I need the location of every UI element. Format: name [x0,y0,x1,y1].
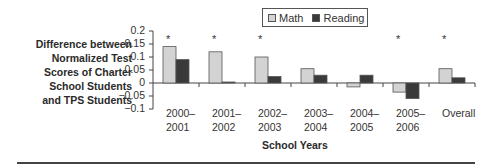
x-category-label: Overall [442,106,475,134]
bar-reading [268,77,281,84]
legend-item-reading: Reading [312,12,364,24]
x-category-label: 2002–2003 [258,106,287,134]
legend-label: Reading [323,12,364,24]
bar-reading [314,75,327,83]
significance-star: * [258,33,262,45]
bar-reading [222,82,235,83]
x-axis-title: School Years [262,139,328,151]
x-category-label: 2005–2006 [396,106,425,134]
x-category-label: 2000–2001 [166,106,195,134]
x-category-label: 2003–2004 [304,106,333,134]
plot-area [0,0,488,167]
math-swatch-icon [268,14,276,22]
bar-reading [452,78,465,83]
significance-star: * [166,33,170,45]
bar-math [209,52,222,83]
bar-math [301,69,314,83]
reading-swatch-icon [312,14,320,22]
legend: Math Reading [262,8,368,27]
x-category-label: 2004–2005 [350,106,379,134]
bar-math [163,47,176,83]
x-category-label: 2001–2002 [212,106,241,134]
significance-star: * [212,33,216,45]
significance-star: * [396,33,400,45]
bar-reading [406,83,419,99]
bar-math [255,57,268,83]
significance-star: * [442,33,446,45]
bar-reading [176,60,189,83]
bar-math [347,83,360,87]
bar-reading [360,75,373,83]
bar-math [439,69,452,83]
legend-label: Math [279,12,303,24]
bar-math [393,83,406,92]
legend-item-math: Math [268,12,303,24]
divider [17,162,475,164]
